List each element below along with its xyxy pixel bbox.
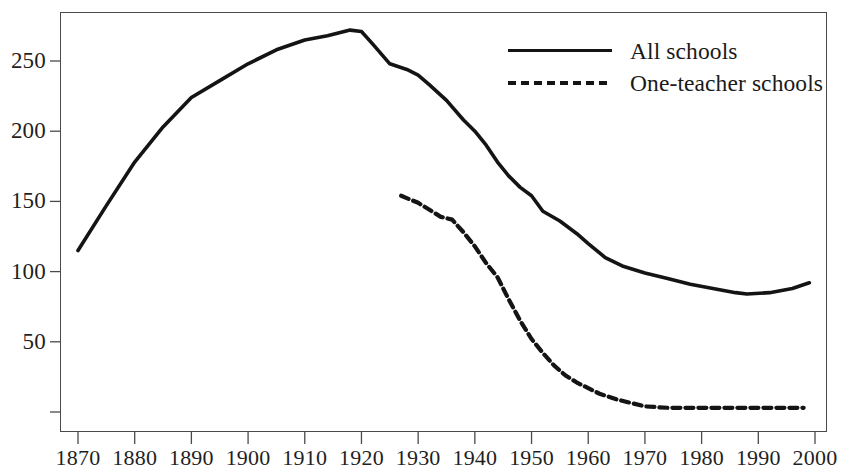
chart-legend: All schools One-teacher schools	[508, 36, 823, 100]
y-tick-label: 150	[0, 189, 46, 212]
y-tick-label: 200	[0, 119, 46, 142]
legend-label-all-schools: All schools	[630, 38, 738, 64]
legend-swatch-dashed-line-icon	[508, 76, 612, 90]
legend-item-all-schools: All schools	[508, 36, 823, 65]
series-line-dashed	[401, 196, 804, 408]
legend-item-one-teacher-schools: One-teacher schools	[508, 68, 823, 97]
legend-swatch-solid-line-icon	[508, 44, 612, 58]
x-tick-label: 2000	[781, 447, 843, 469]
y-tick-label: 250	[0, 49, 46, 72]
y-tick-label: 50	[0, 330, 46, 353]
chart-root: 50100150200250 1870188018901900191019201…	[0, 0, 843, 474]
legend-label-one-teacher-schools: One-teacher schools	[630, 70, 823, 96]
axis-ticks	[50, 61, 815, 444]
y-tick-label: 100	[0, 260, 46, 283]
